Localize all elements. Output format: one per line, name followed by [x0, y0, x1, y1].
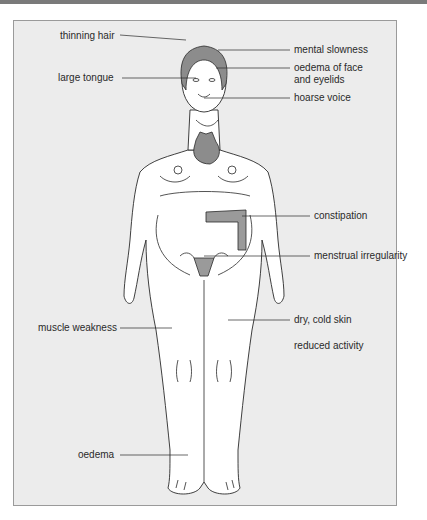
label-oedema-face-2: and eyelids [294, 74, 345, 86]
label-dry-cold-skin: dry, cold skin [294, 314, 352, 326]
label-oedema: oedema [78, 449, 114, 461]
label-muscle-weakness: muscle weakness [38, 322, 117, 334]
label-hoarse-voice: hoarse voice [294, 92, 351, 104]
label-menstrual-irregularity: menstrual irregularity [314, 250, 407, 262]
label-reduced-activity: reduced activity [294, 340, 363, 352]
leader-thinning-hair [120, 35, 186, 40]
label-oedema-face-1: oedema of face [294, 62, 363, 74]
label-mental-slowness: mental slowness [294, 44, 368, 56]
label-large-tongue: large tongue [58, 72, 114, 84]
label-constipation: constipation [314, 210, 367, 222]
label-thinning-hair: thinning hair [60, 30, 114, 42]
